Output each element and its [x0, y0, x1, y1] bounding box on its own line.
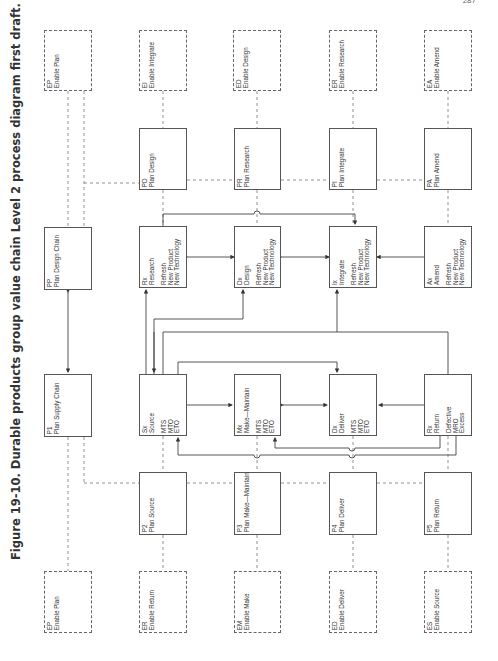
box-plan-design-chain: PPPlan Design Chain: [44, 227, 92, 290]
option: Excess: [459, 407, 466, 433]
option: New Technology: [459, 239, 466, 285]
box-name: Plan Supply Chain: [54, 382, 61, 434]
box-plan-supply-chain: P1Plan Supply Chain: [44, 374, 92, 437]
box-enable-integrate: EIEnable Integrate: [139, 30, 187, 91]
box-name: Deliver: [339, 413, 346, 433]
box-name: Enable Make: [244, 593, 251, 630]
box-plan-design: PDPlan Design: [139, 128, 187, 190]
box-enable-return: EREnable Return: [139, 571, 187, 633]
box-enable-plan-bottom: EPEnable Plan: [44, 571, 92, 633]
box-name: Plan Design: [149, 153, 156, 187]
box-plan-deliver: P4Plan Deliver: [329, 472, 377, 535]
option: ETO: [269, 388, 276, 434]
box-plan-integrate: PIPlan Integrate: [329, 128, 377, 190]
box-name: Return: [434, 407, 441, 433]
box-name: Plan Integrate: [339, 148, 346, 187]
option: ETO: [174, 413, 181, 433]
box-enable-research: EREnable Research: [329, 30, 377, 91]
box-source: SxSourceMTSMTOETO: [139, 374, 187, 436]
box-design: DxDesignRefreshNew ProductNew Technology: [234, 226, 281, 288]
box-name: Amend: [434, 239, 441, 285]
box-name: Enable Plan: [54, 54, 61, 88]
box-amend: AxAmendRefreshNew ProductNew Technology: [424, 226, 472, 288]
box-name: Plan Deliver: [339, 498, 346, 532]
box-name: Enable Research: [339, 40, 346, 88]
box-enable-amend: EAEnable Amend: [424, 30, 472, 91]
option: New Technology: [174, 239, 181, 285]
box-enable-design: EDEnable Design: [233, 30, 281, 91]
box-name: Enable Amend: [434, 47, 441, 88]
box-name: Source: [149, 413, 156, 433]
box-enable-deliver: EDEnable Deliver: [329, 571, 377, 633]
box-name: Enable Source: [434, 589, 441, 630]
box-name: Design: [244, 239, 251, 285]
box-name: Enable Plan: [54, 596, 61, 630]
box-name: Plan Research: [244, 146, 251, 187]
box-enable-plan-top: EPEnable Plan: [44, 30, 92, 91]
option: New Technology: [364, 239, 371, 285]
box-name: Plan Amend: [434, 153, 441, 187]
box-deliver: DxDeliverMTSMTOETO: [329, 374, 377, 436]
box-name: Make—Maintain: [244, 388, 251, 434]
box-make-maintain: MxMake—MaintainMTSMTOETO: [234, 374, 281, 436]
box-plan-return: P5Plan Return: [424, 472, 472, 535]
box-name: Plan Make—Maintain: [244, 472, 251, 532]
box-name: Integrate: [339, 239, 346, 285]
box-plan-source: P2Plan Source: [139, 472, 187, 535]
box-integrate: IxIntegrateRefreshNew ProductNew Technol…: [329, 226, 377, 288]
box-name: Research: [149, 239, 156, 285]
box-name: Enable Deliver: [339, 589, 346, 630]
box-name: Plan Source: [149, 498, 156, 532]
box-name: Plan Design Chain: [54, 235, 61, 287]
option: ETO: [364, 413, 371, 433]
box-research: RxResearchRefreshNew ProductNew Technolo…: [139, 226, 187, 288]
box-return: RxReturnDefectiveMROExcess: [424, 374, 472, 436]
box-plan-research: PRPlan Research: [234, 128, 281, 190]
box-plan-make-maintain: P3Plan Make—Maintain: [234, 472, 281, 535]
box-enable-make: EMEnable Make: [234, 571, 281, 633]
box-plan-amend: PAPlan Amend: [424, 128, 472, 190]
box-enable-source: ESEnable Source: [424, 571, 472, 633]
box-name: Plan Return: [434, 499, 441, 532]
box-name: Enable Design: [243, 47, 250, 88]
box-name: Enable Return: [149, 590, 156, 630]
option: New Technology: [269, 239, 276, 285]
box-name: Enable Integrate: [149, 42, 156, 88]
connector-lines: [0, 0, 498, 661]
